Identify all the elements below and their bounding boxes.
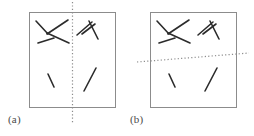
segment-upper-right-cluster-right-arm: [210, 21, 219, 39]
segment-upper-left-cluster-long-lower: [168, 33, 190, 43]
panel-frame-b: [151, 13, 237, 108]
segment-upper-left-cluster-long-upper: [47, 20, 68, 34]
segment-upper-left-cluster-diagonal-down: [36, 21, 48, 34]
panel-label-b: (b): [130, 114, 143, 125]
divider-line-diagonal-b: [137, 53, 249, 62]
segment-lower-right-isolated: [205, 68, 217, 91]
segment-lower-left-isolated: [48, 74, 54, 87]
segment-upper-left-cluster-long-upper: [168, 20, 189, 34]
segment-lower-left-isolated: [169, 74, 175, 87]
segment-upper-left-cluster-short-base: [159, 38, 175, 43]
panel-a: [30, 2, 116, 123]
figure-container: (a) (b): [0, 0, 254, 136]
panel-b: [137, 13, 249, 108]
segment-upper-left-cluster-short-base: [38, 38, 54, 43]
segment-upper-right-cluster-right-arm: [89, 21, 98, 39]
figure-canvas: [0, 0, 254, 136]
segment-upper-left-cluster-long-lower: [47, 33, 69, 43]
segment-upper-left-cluster-diagonal-down: [157, 21, 169, 34]
segment-lower-right-isolated: [84, 68, 96, 91]
panel-label-a: (a): [8, 114, 21, 125]
